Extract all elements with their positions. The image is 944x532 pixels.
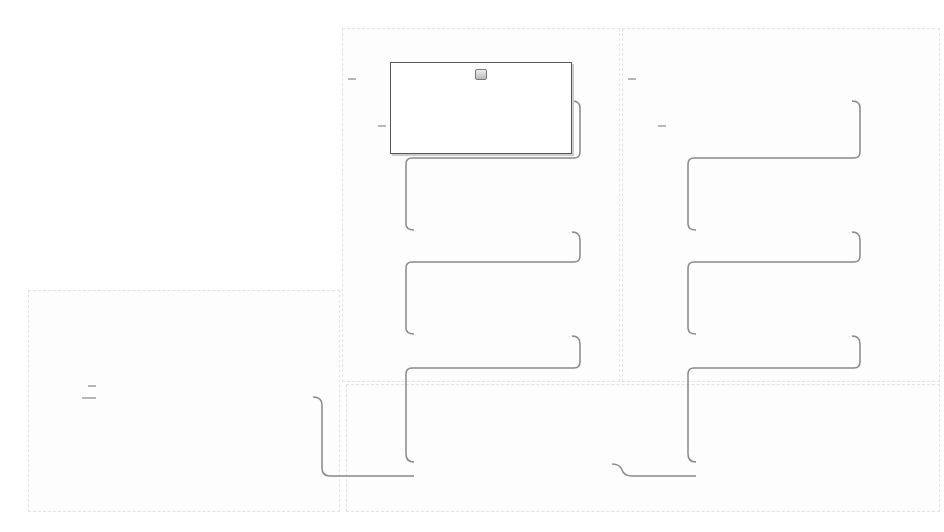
block-r-eg-sollwerte[interactable]: [390, 62, 572, 154]
function-block-icon: [475, 69, 487, 80]
